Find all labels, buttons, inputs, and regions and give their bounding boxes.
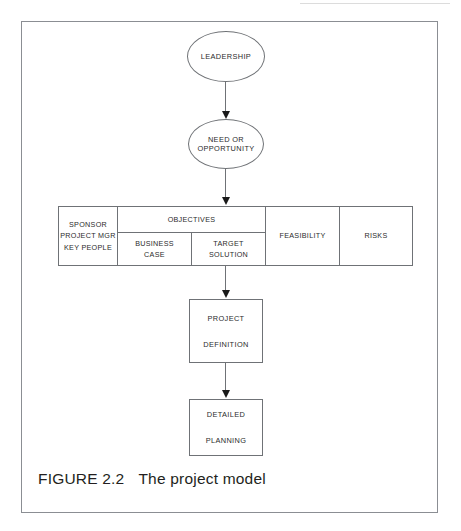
connector-need-to-table (225, 169, 226, 198)
node-detailed-planning: DETAILED PLANNING (189, 399, 263, 456)
table-column-people: SPONSOR PROJECT MGR KEY PEOPLE (59, 207, 117, 265)
target-solution-line-2: SOLUTION (209, 249, 248, 260)
arrowhead-project-definition-to-detailed-planning (222, 390, 230, 398)
connector-project-definition-to-detailed-planning (225, 363, 226, 391)
people-line-1: SPONSOR (69, 219, 107, 230)
table-cell-people: SPONSOR PROJECT MGR KEY PEOPLE (59, 207, 117, 265)
node-need-line-2: OPPORTUNITY (197, 144, 254, 153)
figure-page: LEADERSHIP NEED OR OPPORTUNITY SPONSOR P… (0, 0, 461, 531)
node-need-or-opportunity-label: NEED OR OPPORTUNITY (197, 135, 254, 154)
figure-frame: LEADERSHIP NEED OR OPPORTUNITY SPONSOR P… (21, 21, 438, 513)
table-objectives-subrow: BUSINESS CASE TARGET SOLUTION (118, 233, 265, 265)
node-leadership: LEADERSHIP (187, 31, 265, 82)
arrowhead-need-to-table (222, 197, 230, 205)
table-cell-risks: RISKS (340, 207, 412, 265)
table-cell-business-case: BUSINESS CASE (118, 233, 191, 265)
table-cell-objectives-header: OBJECTIVES (118, 207, 265, 233)
node-leadership-label: LEADERSHIP (201, 52, 251, 61)
business-case-line-1: BUSINESS (135, 238, 174, 249)
table-column-objectives: OBJECTIVES BUSINESS CASE TARGET SOLUTION (117, 207, 265, 265)
scan-artifact-line (300, 3, 450, 4)
detailed-planning-line-1: DETAILED (207, 410, 245, 419)
risks-label: RISKS (364, 230, 387, 241)
connector-table-to-project-definition (225, 266, 226, 291)
feasibility-label: FEASIBILITY (279, 230, 325, 241)
table-column-feasibility: FEASIBILITY (265, 207, 339, 265)
table-cell-feasibility: FEASIBILITY (266, 207, 339, 265)
detailed-planning-line-2: PLANNING (206, 436, 247, 445)
objectives-header-label: OBJECTIVES (168, 214, 216, 225)
model-table: SPONSOR PROJECT MGR KEY PEOPLE OBJECTIVE… (58, 206, 413, 266)
people-line-3: KEY PEOPLE (64, 242, 112, 253)
figure-caption: FIGURE 2.2The project model (38, 470, 266, 488)
table-cell-target-solution: TARGET SOLUTION (191, 233, 265, 265)
project-definition-line-2: DEFINITION (203, 340, 248, 349)
people-line-2: PROJECT MGR (60, 230, 115, 241)
figure-caption-text: The project model (138, 470, 265, 487)
arrowhead-leadership-to-need (222, 111, 230, 119)
node-need-line-1: NEED OR (208, 135, 244, 144)
connector-leadership-to-need (225, 82, 226, 113)
figure-caption-label: FIGURE 2.2 (38, 470, 124, 487)
business-case-line-2: CASE (144, 249, 165, 260)
target-solution-line-1: TARGET (213, 238, 243, 249)
table-column-risks: RISKS (339, 207, 412, 265)
node-project-definition: PROJECT DEFINITION (189, 299, 263, 363)
project-definition-line-1: PROJECT (208, 314, 245, 323)
node-need-or-opportunity: NEED OR OPPORTUNITY (188, 119, 264, 169)
arrowhead-table-to-project-definition (222, 290, 230, 298)
